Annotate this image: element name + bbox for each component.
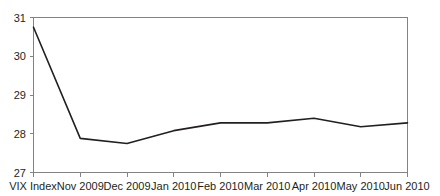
chart-background	[0, 0, 440, 196]
y-tick-label-31: 31	[14, 12, 26, 24]
x-tick-label-may-2010: May 2010	[337, 180, 385, 192]
x-tick-label-nov-2009: Nov 2009	[57, 180, 104, 192]
x-tick-label-vix-index: VIX Index	[9, 180, 57, 192]
x-tick-labels: VIX Index Nov 2009 Dec 2009 Jan 2010 Feb…	[9, 180, 429, 192]
x-tick-label-jun-2010: Jun 2010	[384, 180, 429, 192]
x-tick-label-dec-2009: Dec 2009	[103, 180, 150, 192]
chart-screenshot: 31 30 29 28 27 VIX Index Nov 200	[0, 0, 440, 196]
x-tick-label-jan-2010: Jan 2010	[151, 180, 196, 192]
x-tick-label-mar-2010: Mar 2010	[244, 180, 290, 192]
x-tick-label-feb-2010: Feb 2010	[197, 180, 243, 192]
vix-index-line-chart: 31 30 29 28 27 VIX Index Nov 200	[0, 0, 440, 196]
y-tick-label-29: 29	[14, 89, 26, 101]
y-tick-label-30: 30	[14, 50, 26, 62]
y-tick-label-28: 28	[14, 128, 26, 140]
x-tick-label-apr-2010: Apr 2010	[292, 180, 337, 192]
y-tick-label-27: 27	[14, 167, 26, 179]
